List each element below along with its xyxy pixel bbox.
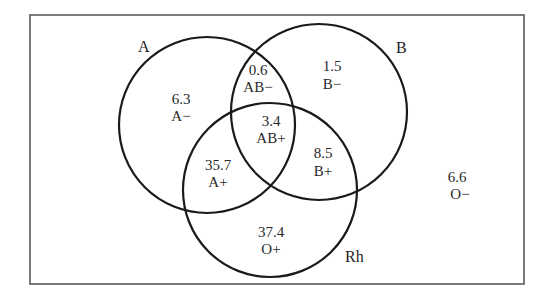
set-a-label: A (138, 38, 150, 55)
region-ab-pos-label: AB+ (256, 130, 285, 146)
venn-diagram: A B Rh 6.3 A− 0.6 AB− 1.5 B− 3.4 AB+ 35.… (0, 0, 548, 301)
set-rh-label: Rh (345, 248, 364, 265)
region-o-pos-label: O+ (261, 241, 280, 257)
region-o-pos-value: 37.4 (258, 224, 285, 240)
region-a-pos-label: A+ (208, 174, 227, 190)
region-a-pos-value: 35.7 (205, 157, 232, 173)
set-b-label: B (396, 39, 407, 56)
region-a-neg-label: A− (171, 108, 190, 124)
region-o-neg-value: 6.6 (448, 169, 467, 185)
region-b-neg-label: B− (323, 76, 341, 92)
region-ab-neg-value: 0.6 (249, 62, 268, 78)
region-b-pos-label: B+ (314, 163, 332, 179)
region-ab-neg-label: AB− (243, 79, 272, 95)
region-ab-pos-value: 3.4 (262, 113, 281, 129)
region-b-pos-value: 8.5 (314, 145, 333, 161)
region-a-neg-value: 6.3 (172, 91, 191, 107)
region-b-neg-value: 1.5 (323, 58, 342, 74)
region-o-neg-label: O− (450, 186, 469, 202)
